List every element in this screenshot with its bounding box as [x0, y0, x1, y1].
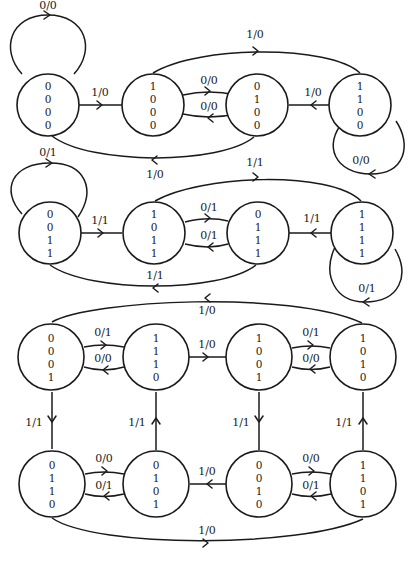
- state-bit: 0: [255, 208, 262, 220]
- edge-label: 1/0: [198, 338, 216, 351]
- state-0011: 0 0 1 1: [19, 202, 81, 264]
- edge-label: 0/1: [302, 326, 320, 339]
- state-bit: 0: [150, 93, 157, 105]
- state-bit: 1: [256, 371, 263, 383]
- edge-0110-0101: 0/0: [85, 452, 124, 475]
- state-bit: 1: [359, 247, 366, 259]
- state-bit: 1: [150, 80, 157, 92]
- state-bit: 0: [47, 208, 54, 220]
- edge-0001-0110: 1/1: [25, 392, 56, 449]
- arrowhead-icon: [205, 294, 210, 302]
- state-bit: 1: [153, 358, 160, 370]
- edge-1001-1010: 0/1: [292, 326, 330, 349]
- edge-0111-1011: 0/1: [185, 229, 228, 251]
- edge-label: 1/0: [304, 86, 322, 99]
- arrowhead-icon: [309, 467, 314, 475]
- edge-label: 1/1: [246, 156, 264, 169]
- edge-label: 0/0: [200, 74, 218, 87]
- state-bit: 0: [256, 358, 263, 370]
- state-bit: 1: [153, 472, 160, 484]
- state-bit: 0: [360, 485, 367, 497]
- state-1101: 1 1 0 1: [330, 451, 396, 517]
- state-0001: 0 0 0 1: [18, 324, 84, 390]
- edge-0011-1011: 1/1: [80, 214, 122, 237]
- state-0000: 0 0 0 0: [17, 74, 79, 136]
- edge-1101-0010: 0/1: [292, 479, 331, 500]
- state-bit: 1: [255, 247, 262, 259]
- state-bit: 1: [256, 485, 263, 497]
- state-bit: 0: [45, 119, 52, 131]
- edge-label: 0/1: [200, 201, 218, 214]
- state-0110: 0 1 1 0: [19, 451, 85, 517]
- state-bit: 1: [360, 459, 367, 471]
- state-bit: 1: [360, 498, 367, 510]
- state-bit: 1: [151, 247, 158, 259]
- state-diagram: 0/0 1/0 0/0 0/0 1/0 1/0 1/0 0/0: [0, 0, 414, 563]
- edge-0010-0101: 1/0: [190, 465, 226, 488]
- state-bit: 1: [49, 472, 56, 484]
- state-bit: 0: [256, 345, 263, 357]
- edge-label: 0/0: [94, 352, 112, 365]
- edge-label: 0/0: [200, 100, 218, 113]
- edge-label: 1/1: [232, 416, 250, 429]
- edge-0001-1110: 0/1: [84, 326, 124, 349]
- arrowhead-icon: [253, 47, 258, 55]
- edge-0100-0000: 1/0: [52, 136, 254, 181]
- state-bit: 1: [359, 221, 366, 233]
- state-bit: 0: [357, 119, 364, 131]
- state-bit: 1: [357, 93, 364, 105]
- edge-label: 1/1: [146, 269, 164, 282]
- state-bit: 0: [49, 459, 56, 471]
- state-bit: 0: [47, 221, 54, 233]
- edge-1101-1010: 1/1: [335, 392, 367, 450]
- state-bit: 0: [48, 358, 55, 370]
- state-bit: 1: [254, 93, 261, 105]
- edge-1001-0010: 1/1: [232, 392, 263, 450]
- state-bit: 0: [254, 80, 261, 92]
- edge-label: 1/1: [25, 416, 43, 429]
- arrowhead-icon: [205, 214, 210, 222]
- state-bit: 0: [45, 80, 52, 92]
- edge-1010-0001: 1/0: [52, 294, 362, 323]
- state-bit: 1: [255, 221, 262, 233]
- edge-label: 1/1: [303, 212, 321, 225]
- state-bit: 0: [153, 459, 160, 471]
- arrowhead-icon: [208, 114, 213, 122]
- state-1110: 1 1 1 0: [123, 324, 189, 390]
- edge-label: 0/0: [39, 0, 57, 12]
- edge-label: 1/1: [128, 416, 146, 429]
- state-bit: 0: [48, 345, 55, 357]
- state-1100: 1 1 0 0: [329, 74, 391, 136]
- state-bit: 1: [151, 208, 158, 220]
- edge-label: 1/0: [198, 524, 216, 537]
- state-bit: 0: [151, 221, 158, 233]
- state-bit: 0: [360, 345, 367, 357]
- state-0100: 0 1 0 0: [226, 74, 288, 136]
- state-bit: 0: [254, 119, 261, 131]
- edge-1000-1100: 1/0: [153, 28, 360, 73]
- state-bit: 1: [357, 80, 364, 92]
- edge-label: 1/0: [91, 86, 109, 99]
- edge-label: 0/1: [302, 479, 320, 492]
- edge-1111-0111: 1/1: [289, 212, 331, 237]
- state-0111: 0 1 1 1: [227, 202, 289, 264]
- edge-label: 1/1: [91, 214, 109, 227]
- edge-0101-1110: 1/1: [128, 392, 160, 450]
- state-bit: 1: [360, 472, 367, 484]
- state-bit: 0: [150, 119, 157, 131]
- state-bit: 0: [256, 472, 263, 484]
- edge-label: 0/0: [302, 452, 320, 465]
- arrowhead-icon: [205, 87, 210, 95]
- arrowhead-icon: [153, 284, 158, 292]
- state-bit: 1: [359, 234, 366, 246]
- state-bit: 1: [49, 485, 56, 497]
- edge-label: 0/0: [95, 452, 113, 465]
- arrowhead-icon: [308, 341, 313, 349]
- state-bit: 0: [153, 371, 160, 383]
- edge-self-0000: 0/0: [10, 0, 85, 74]
- state-bit: 0: [45, 93, 52, 105]
- state-bit: 1: [255, 234, 262, 246]
- state-bit: 0: [357, 106, 364, 118]
- state-bit: 1: [47, 247, 54, 259]
- state-bit: 1: [359, 208, 366, 220]
